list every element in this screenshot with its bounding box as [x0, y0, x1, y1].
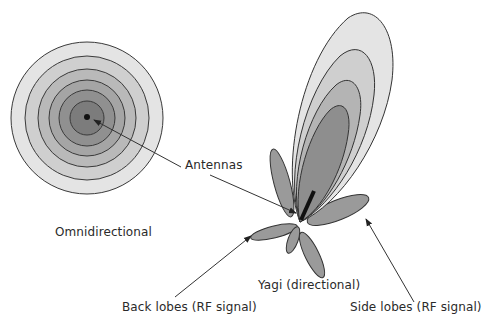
- yagi-pattern: [249, 13, 393, 281]
- arrow-back-lobes: [175, 236, 251, 297]
- back-lobe-down: [295, 229, 330, 280]
- omni-antenna-dot: [84, 114, 90, 120]
- label-antennas: Antennas: [185, 158, 243, 172]
- omnidirectional-pattern: [11, 42, 163, 194]
- label-yagi: Yagi (directional): [258, 278, 360, 292]
- arrow-side-lobes: [366, 219, 414, 302]
- label-back-lobes: Back lobes (RF signal): [122, 300, 257, 314]
- label-side-lobes: Side lobes (RF signal): [350, 300, 482, 314]
- label-omnidirectional: Omnidirectional: [55, 225, 152, 239]
